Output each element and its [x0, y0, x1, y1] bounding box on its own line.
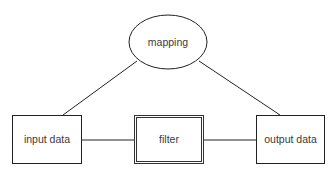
edge-mapping-input: [63, 61, 137, 115]
node-filter: filter: [135, 116, 204, 164]
diagram-canvas: mapping input data filter output data: [0, 0, 336, 178]
edge-mapping-output: [199, 61, 280, 115]
filter-label: filter: [159, 133, 179, 145]
node-input-data: input data: [13, 116, 82, 164]
node-output-data: output data: [257, 116, 325, 164]
mapping-label: mapping: [148, 36, 188, 48]
input-data-label: input data: [24, 133, 70, 145]
node-mapping: mapping: [129, 15, 207, 69]
output-data-label: output data: [264, 133, 317, 145]
